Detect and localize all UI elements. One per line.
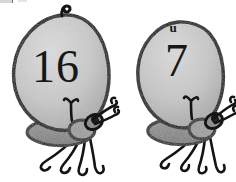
leg [90, 138, 104, 173]
bug-left-number: 16 [32, 41, 80, 92]
leg [210, 137, 225, 172]
antenna-tip [111, 98, 115, 103]
bugs-drawing: 16 [0, 0, 236, 182]
bug-right-top-marking: u [169, 20, 176, 35]
antenna-tip [230, 97, 234, 102]
bug-right: u 7 [138, 20, 236, 173]
bug-left: 16 [14, 6, 119, 175]
scan-artifacts [0, 0, 27, 3]
bug-right-number: 7 [165, 35, 189, 86]
illustration-canvas: 16 [0, 0, 236, 182]
antenna-tip [233, 106, 236, 111]
